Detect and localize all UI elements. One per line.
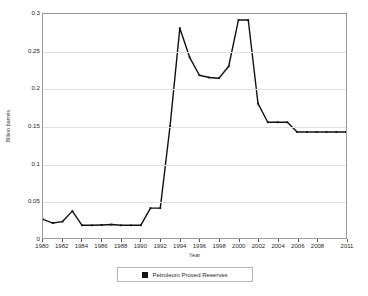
series-point-marker <box>120 224 122 226</box>
x-tick-mark <box>219 239 220 242</box>
series-point-marker <box>198 74 200 76</box>
series-point-marker <box>43 218 44 220</box>
series-line-petroleum-proved-reserves <box>43 14 346 238</box>
y-tick-label: 0.25 <box>14 48 40 54</box>
x-tick-label: 2004 <box>271 243 284 250</box>
series-point-marker <box>267 121 269 123</box>
series-point-marker <box>159 207 161 209</box>
x-tick-mark <box>81 239 82 242</box>
y-tick-label: 0.05 <box>14 198 40 204</box>
x-tick-label: 2006 <box>291 243 304 250</box>
y-tick-label: 0 <box>14 236 40 242</box>
x-tick-mark <box>317 239 318 242</box>
series-point-marker <box>296 131 298 133</box>
x-tick-label: 1996 <box>193 243 206 250</box>
series-point-marker <box>150 207 152 209</box>
x-tick-mark <box>42 239 43 242</box>
series-point-marker <box>335 131 337 133</box>
x-tick-mark <box>239 239 240 242</box>
series-point-marker <box>52 222 54 224</box>
y-tick-label: 0.15 <box>14 123 40 129</box>
series-point-marker <box>306 131 308 133</box>
series-point-marker <box>345 131 346 133</box>
legend-item-label: Petroleum Proved Reserves <box>152 272 227 278</box>
x-tick-label: 2000 <box>232 243 245 250</box>
series-point-marker <box>71 210 73 212</box>
series-point-marker <box>91 224 93 226</box>
y-tick-label: 0.3 <box>14 10 40 16</box>
gridline <box>43 165 346 166</box>
series-point-marker <box>208 77 210 79</box>
x-tick-label: 1990 <box>134 243 147 250</box>
series-point-marker <box>189 56 191 58</box>
x-tick-mark <box>160 239 161 242</box>
x-tick-label: 2011 <box>341 243 354 250</box>
series-point-marker <box>62 221 64 223</box>
x-tick-mark <box>258 239 259 242</box>
x-tick-label: 1988 <box>114 243 127 250</box>
y-tick-label: 0.1 <box>14 161 40 167</box>
x-tick-label: 1992 <box>153 243 166 250</box>
gridline <box>43 127 346 128</box>
series-point-marker <box>179 27 181 29</box>
x-tick-label: 1994 <box>173 243 186 250</box>
x-tick-label: 1998 <box>212 243 225 250</box>
series-point-marker <box>238 19 240 21</box>
series-point-marker <box>130 224 132 226</box>
x-tick-mark <box>298 239 299 242</box>
series-point-marker <box>140 224 142 226</box>
series-point-marker <box>277 121 279 123</box>
series-point-marker <box>81 224 83 226</box>
series-point-marker <box>101 224 103 226</box>
x-tick-mark <box>62 239 63 242</box>
x-tick-mark <box>278 239 279 242</box>
x-tick-mark <box>121 239 122 242</box>
series-point-marker <box>247 19 249 21</box>
series-point-marker <box>257 103 259 105</box>
x-tick-label: 2002 <box>252 243 265 250</box>
gridline <box>43 202 346 203</box>
gridline <box>43 52 346 53</box>
x-tick-label: 1982 <box>55 243 68 250</box>
x-tick-label: 1984 <box>75 243 88 250</box>
series-point-marker <box>218 77 220 79</box>
series-point-marker <box>228 65 230 67</box>
legend-swatch-icon <box>142 272 148 278</box>
x-tick-mark <box>180 239 181 242</box>
x-tick-mark <box>199 239 200 242</box>
series-point-marker <box>316 131 318 133</box>
chart-legend: Petroleum Proved Reserves <box>117 267 253 282</box>
chart-figure: Billion barrels 00.050.10.150.20.250.3 1… <box>0 0 368 296</box>
series-path <box>43 20 346 225</box>
x-tick-label: 1980 <box>35 243 48 250</box>
y-tick-label: 0.2 <box>14 85 40 91</box>
series-point-marker <box>111 224 113 226</box>
series-point-marker <box>286 121 288 123</box>
gridline <box>43 89 346 90</box>
x-tick-mark <box>347 239 348 242</box>
x-tick-label: 1986 <box>94 243 107 250</box>
x-tick-mark <box>101 239 102 242</box>
plot-area <box>42 13 347 239</box>
x-tick-mark <box>140 239 141 242</box>
series-point-marker <box>326 131 328 133</box>
x-tick-label: 2008 <box>311 243 324 250</box>
x-axis-title: Year <box>42 252 347 258</box>
